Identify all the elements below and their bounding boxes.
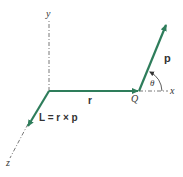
theta-label: θ: [150, 79, 154, 88]
r-vector-label: r: [88, 96, 92, 106]
Q-point-label: Q: [131, 94, 138, 104]
L-vector-label: L = r × p: [39, 113, 78, 123]
p-vector-label: p: [164, 53, 171, 64]
x-axis-label: x: [170, 86, 174, 96]
z-axis-label: z: [6, 158, 10, 168]
angular-momentum-diagram: y x z r p L = r × p Q θ: [0, 0, 183, 177]
diagram-canvas: [0, 0, 183, 177]
y-axis-label: y: [46, 9, 50, 19]
z-axis: [10, 124, 28, 158]
